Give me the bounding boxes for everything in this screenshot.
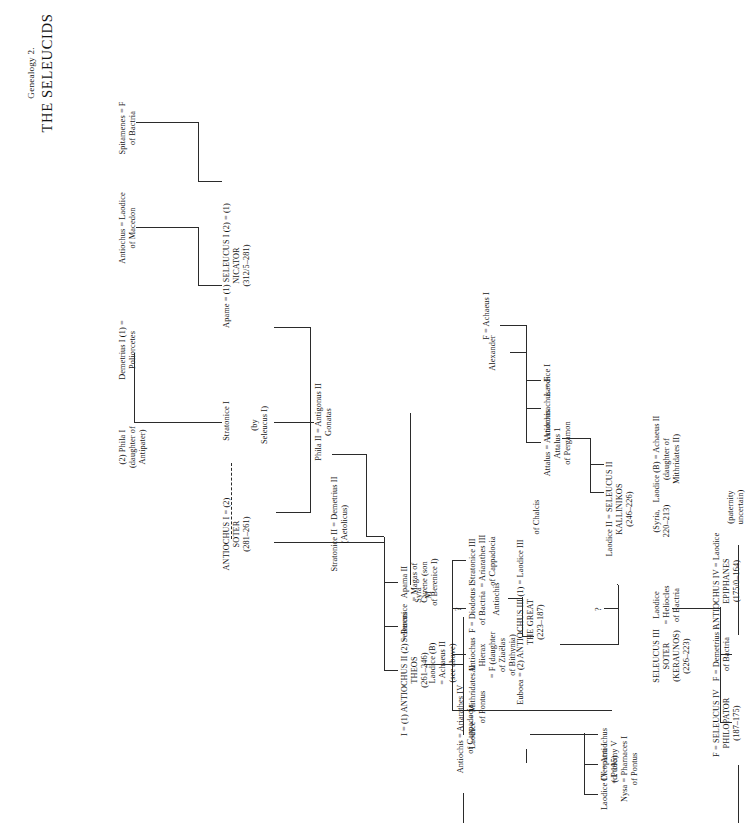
connector-antiochus-i-down: [274, 542, 384, 543]
node-laodice-b-see-above: Laodice (B) = Achaeus II (see above): [428, 621, 458, 705]
node-antiochus-iv-wife: (paternity uncertain): [726, 469, 746, 545]
connector-laodice-b-up: [424, 664, 464, 665]
connector-andromachus-child-laodice-ii: [590, 464, 604, 465]
connector-spitamenes-down: [136, 122, 198, 123]
node-antiochis-small: Antiochis: [492, 563, 502, 635]
connector-seleucus-iv-left-line: [738, 765, 739, 823]
node-by-seleucus-i: (by Seleucus I): [250, 389, 270, 461]
connector-gen6-bar: [720, 607, 721, 723]
connector-laodice-across: [198, 227, 199, 286]
node-stratonice-i: Stratonice I: [222, 385, 232, 457]
node-antiochus-i-soter: ANTIOCHUS I = (2) SOTER (281–261): [222, 469, 252, 599]
connector-antiochis-to-ariarathes: [463, 617, 464, 735]
node-stratonice-ii: Stratonice II = Demetrius II (Aetolicus): [330, 453, 350, 595]
connector-antiochis-small-stem: [522, 636, 534, 637]
node-antiochus-of-macedon: Antiochus = Laodice of Macedon: [118, 163, 138, 293]
connector-antiochus-iv-spouse-line: [738, 545, 739, 635]
node-attalus-antiochis: Attalus = Antiochis Attalus 1 of Pergamo…: [543, 393, 573, 493]
connector-gen6-down: [672, 608, 720, 609]
connector-child-seleucus: [384, 626, 398, 627]
connector-laodice-down: [136, 227, 198, 228]
connector-antiochis-right-edge: [463, 793, 464, 823]
connector-achaeus-i-down: [500, 325, 526, 326]
connector-a3-child-antiochis: [584, 734, 598, 735]
connector-seleucus-i-up: [198, 285, 222, 286]
connector-antiochis-small-down: [508, 598, 522, 599]
connector-a2-child-stratonice-iii: [452, 560, 466, 561]
chart-title: THE SELEUCIDS: [39, 13, 56, 133]
connector-s2-child-laodice-heliocles: [604, 608, 619, 609]
connector-phila-ii-across: [366, 454, 367, 537]
node-euboea-of-chalcis: of Chalcis: [532, 481, 542, 553]
node-berenice-syra: Syra M: [414, 563, 434, 627]
connector-a3-child-cleopatra: [584, 764, 598, 765]
connector-demetrius-phila: [134, 353, 135, 423]
connector-s2-bar: [560, 644, 618, 645]
connector-child-antiochus-ii: [384, 670, 398, 671]
connector-achaeus-i-children: [526, 325, 527, 443]
node-demetrius-i-poliorcetes: Demetrius I (1) = Poliorcetes: [118, 295, 138, 405]
node-seleucus-ii-kallinikos: Laodice II = SELEUCUS II KALLINIKOS (246…: [605, 433, 635, 585]
connector-a3-child-laodice-iv: [584, 794, 598, 795]
connector-achaeus-child-laodice-i: [526, 380, 541, 381]
genealogy-number: Genealogy 2.: [26, 13, 36, 133]
connector-gen6-child-f-demetrius: [720, 654, 732, 655]
connector-gen6-child-seleucus-iv: [720, 722, 732, 723]
connector-laodice-iii-link: [526, 749, 527, 763]
connector-antiochus-i-children-bar: [384, 537, 385, 671]
connector-stratonice-i-to-phila-ii: [274, 422, 314, 423]
connector-andromachus-children: [590, 438, 591, 493]
connector-seleucus-i-children: [310, 327, 311, 513]
connector-achaeus-child-andromachus: [526, 408, 541, 409]
connector-child-stratonice-ii: [366, 536, 384, 537]
connector-antiochus-i-up: [276, 512, 311, 513]
connector-andromachus-down: [562, 438, 590, 439]
connector-seleucus-i-down: [274, 327, 310, 328]
connector-achaeus-child-antiochis: [526, 442, 541, 443]
connector-child-apama-ii: [384, 582, 398, 583]
connector-antiochis-small-bar: [522, 597, 523, 637]
node-antiochis-ariarathes-iv: Antiochis = Ariarathes IV of Cappadocia: [456, 665, 476, 793]
connector-achaeus-child-alexander: [510, 352, 527, 353]
node-achaeus-ii-syria: (Syria, 220–213): [652, 481, 672, 561]
connector-stratonice-i-down: [134, 422, 222, 423]
node-seleucus-iii-soter: SELEUCUS III SOTER (KERAUNOS) (226–223): [652, 611, 692, 701]
page-title: Genealogy 2. THE SELEUCIDS: [26, 13, 56, 133]
connector-apame-up: [198, 181, 222, 182]
node-laodice-iv-antiochus: Laodice IV = Antiochus (d. 195) Nysa = P…: [600, 715, 640, 823]
node-alexander: Alexander: [488, 317, 498, 389]
connector-s2-children-bar: [618, 585, 619, 645]
connector-laodice-i-to-antiochus-ii: [410, 413, 411, 585]
connector-spitamenes-across: [198, 122, 199, 182]
connector-a3-down: [530, 734, 584, 735]
node-seleucus-i-nicator: Apame = (1) SELEUCUS I (2) = (1) NICATOR…: [222, 158, 252, 373]
connector-andromachus-child-achaeus-ii: [590, 492, 604, 493]
query-marker-diodotus: ?: [454, 607, 463, 611]
query-marker-laodice-heliocles: ?: [594, 607, 603, 611]
